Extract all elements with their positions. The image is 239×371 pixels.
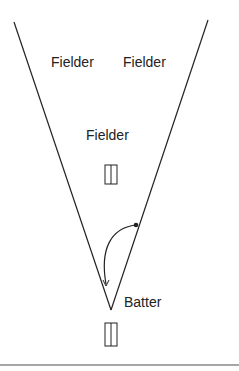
fielder-left-label: Fielder: [51, 54, 94, 70]
far-stumps-icon: [105, 165, 117, 184]
near-stumps-icon: [105, 323, 117, 346]
batter-label: Batter: [124, 294, 161, 310]
field-diagram: [0, 0, 239, 371]
fielder-center-label: Fielder: [86, 127, 129, 143]
ball-trajectory-arrow: [103, 223, 138, 286]
fielder-right-label: Fielder: [123, 54, 166, 70]
